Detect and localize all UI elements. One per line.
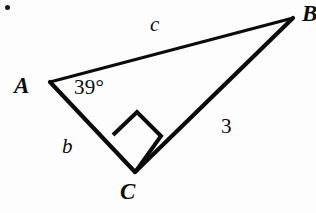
vertex-label-a: A — [14, 74, 29, 97]
geometry-figure: A B C c b 3 39° — [0, 0, 316, 213]
vertex-label-c: C — [120, 180, 135, 203]
segment-ab — [50, 18, 293, 82]
angle-label-a: 39° — [74, 77, 104, 98]
segment-bc — [135, 18, 293, 172]
side-label-bc: 3 — [221, 116, 232, 137]
right-angle-marker-icon — [113, 112, 161, 171]
scan-dot-artifact — [5, 5, 10, 10]
side-label-ac: b — [62, 136, 73, 157]
side-label-ab: c — [150, 14, 159, 35]
vertex-label-b: B — [302, 2, 316, 25]
